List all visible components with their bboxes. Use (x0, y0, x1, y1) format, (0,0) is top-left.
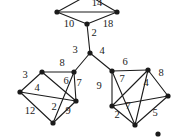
graph-node-right-g (145, 67, 150, 72)
edge-weight-label: 9 (65, 105, 70, 116)
stray-dot-0 (155, 131, 160, 136)
edge-weight-label: 6 (122, 56, 127, 67)
graph-node-left-a (39, 69, 44, 74)
graph-node-right-i (165, 93, 170, 98)
edge-weight-label: 3 (22, 69, 27, 80)
edge-weight-label: 7 (119, 73, 124, 84)
edge-weight-label: 2 (114, 109, 119, 120)
edge-weight-label: 4 (34, 82, 40, 93)
edge-weight-label: 7 (125, 100, 130, 111)
graph-node-left-e (50, 120, 55, 125)
graph-diagram: 14101823438641272969778425 (0, 0, 173, 139)
edge-weight-label: 2 (91, 27, 96, 38)
graph-edge-top-apex-top-left (57, 0, 88, 12)
edge-weight-label: 10 (64, 18, 75, 29)
graph-node-right-f (109, 68, 114, 73)
graph-edge-right-f-right-g (112, 70, 148, 71)
graph-node-top-right (114, 9, 119, 14)
edge-weight-label: 4 (99, 45, 105, 56)
edge-weight-label: 18 (103, 18, 114, 29)
graph-node-top-bottom (84, 21, 89, 26)
edge-weight-label: 4 (143, 77, 149, 88)
graph-node-top-left (54, 9, 59, 14)
edge-weight-label: 6 (63, 75, 68, 86)
graph-node-right-h (109, 103, 114, 108)
graph-figure: 14101823438641272969778425 (0, 0, 173, 139)
graph-edge-hub-left-c (74, 53, 90, 72)
edge-weight-label: 12 (25, 105, 36, 116)
graph-node-left-d (73, 98, 78, 103)
graph-node-left-b (17, 89, 22, 94)
edge-weight-label: 7 (76, 77, 81, 88)
graph-edge-top-bottom-hub (87, 24, 90, 53)
graph-node-left-c (71, 69, 76, 74)
edge-weight-label: 2 (51, 101, 56, 112)
edge-weight-label: 9 (96, 80, 101, 91)
graph-node-hub (87, 50, 92, 55)
edge-weight-label: 5 (152, 107, 157, 118)
edge-weight-label: 8 (59, 57, 64, 68)
graph-node-right-j (132, 122, 137, 127)
edge-weight-label: 14 (92, 0, 103, 8)
edge-weight-label: 3 (72, 44, 77, 55)
edge-weight-label: 8 (158, 67, 163, 78)
